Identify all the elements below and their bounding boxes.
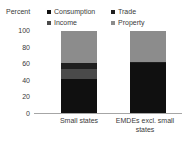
y-tick-label: 80 [0,44,30,51]
legend-column-left: Consumption Income [47,6,95,28]
chart-legend: Consumption Income Trade Property [47,6,183,28]
bar-emdes-excl-small-states [130,31,166,114]
legend-swatch-property [111,21,115,25]
legend-swatch-consumption [47,10,51,14]
legend-label-property: Property [118,18,144,27]
legend-label-income: Income [54,18,77,27]
legend-label-trade: Trade [118,7,136,16]
bar-segment-property [61,31,97,63]
category-label-emdes: EMDEs excl. small states [112,116,178,134]
y-tick-label: 0 [0,110,30,117]
bar-segment-trade [61,63,97,70]
category-label-small-states: Small states [46,116,112,125]
x-axis-category-labels: Small states EMDEs excl. small states [34,116,182,146]
legend-swatch-trade [111,10,115,14]
bar-segment-consumption [130,63,166,114]
y-axis-title: Percent [6,8,30,15]
legend-item-consumption: Consumption [47,6,95,17]
y-tick-label: 40 [0,77,30,84]
legend-label-consumption: Consumption [54,7,95,16]
legend-swatch-income [47,21,51,25]
legend-item-trade: Trade [111,6,144,17]
bar-segment-income [61,69,97,79]
plot-area [34,31,180,114]
y-tick-label: 60 [0,60,30,67]
y-tick-label: 20 [0,93,30,100]
legend-column-right: Trade Property [111,6,144,28]
bar-small-states [61,31,97,114]
y-tick-label: 100 [0,27,30,34]
x-axis-line [34,113,182,114]
legend-item-income: Income [47,17,95,28]
y-axis-ticks: 100 80 60 40 20 0 [0,27,30,119]
bar-segment-property [130,31,166,62]
bar-segment-consumption [61,79,97,114]
stacked-bar-chart: Consumption Income Trade Property Percen… [0,0,185,148]
legend-item-property: Property [111,17,144,28]
